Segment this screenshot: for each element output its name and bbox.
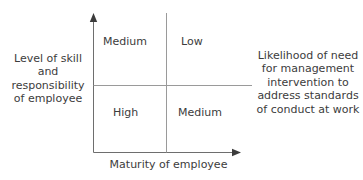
quadrant-label-top-left: Medium [103,35,147,48]
x-axis-arrowhead-icon [232,149,241,156]
y-axis-label: Level of skillandresponsibilityof employ… [6,52,90,106]
quadrant-diagram: Medium Low High Medium Level of skilland… [0,0,363,180]
quadrant-label-bottom-left: High [113,106,138,119]
quadrant-label-top-right: Low [181,35,203,48]
quadrant-label-bottom-right: Medium [178,106,222,119]
y-axis-arrowhead-icon [90,13,97,22]
x-axis-label: Maturity of employee [96,158,241,171]
right-annotation-label: Likelihood of needfor managementinterven… [254,49,362,116]
